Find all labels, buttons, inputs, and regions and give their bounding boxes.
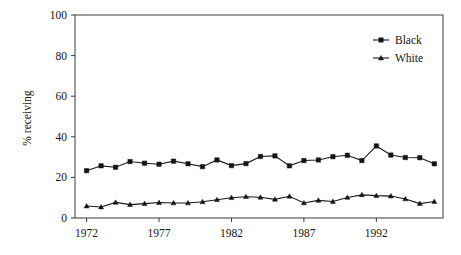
x-axis-tick-labels: 19721977198219871992 [75, 227, 388, 239]
data-point [389, 153, 393, 157]
data-point [432, 162, 436, 166]
legend-entry-black: Black [373, 34, 422, 46]
x-tick-label: 1972 [75, 227, 98, 239]
data-point [229, 163, 233, 167]
y-tick-label: 60 [56, 90, 68, 102]
x-tick-label: 1992 [365, 227, 388, 239]
data-point [99, 164, 103, 168]
data-point [432, 199, 437, 203]
data-point [345, 153, 349, 157]
data-point [84, 169, 88, 173]
x-tick-label: 1982 [220, 227, 243, 239]
data-point [403, 155, 407, 159]
y-tick-label: 0 [61, 212, 67, 224]
legend-entry-white: White [373, 52, 423, 64]
chart-legend: BlackWhite [373, 34, 423, 64]
plot-border [75, 15, 443, 218]
data-point [302, 158, 306, 162]
y-axis-ticks [71, 15, 75, 218]
y-tick-label: 40 [56, 131, 68, 143]
data-point [186, 162, 190, 166]
plot-frame [75, 15, 443, 218]
data-point [331, 154, 335, 158]
series-layer [84, 144, 437, 209]
y-tick-label: 80 [56, 50, 68, 62]
x-axis-ticks [87, 218, 377, 222]
data-point [360, 158, 364, 162]
data-point [200, 164, 204, 168]
data-point [128, 159, 132, 163]
data-point [113, 200, 118, 204]
data-point [113, 165, 117, 169]
data-point [273, 154, 277, 158]
data-point [157, 162, 161, 166]
y-axis-tick-labels: 020406080100 [50, 9, 68, 224]
y-tick-label: 100 [50, 9, 68, 21]
series-white [84, 192, 437, 209]
y-tick-label: 20 [56, 171, 68, 183]
chart-figure: 020406080100 19721977198219871992 BlackW… [0, 0, 461, 255]
data-point [374, 144, 378, 148]
data-point [142, 161, 146, 165]
data-point [287, 164, 291, 168]
x-tick-label: 1987 [292, 227, 315, 239]
y-axis-title: % receiving [21, 90, 34, 145]
data-point [258, 154, 262, 158]
data-point [215, 158, 219, 162]
data-point [244, 161, 248, 165]
data-point [287, 194, 292, 198]
legend-marker-square-icon [379, 38, 383, 42]
legend-label: White [395, 52, 423, 64]
data-point [418, 156, 422, 160]
series-black [84, 144, 436, 173]
line-chart: 020406080100 19721977198219871992 BlackW… [0, 0, 461, 255]
data-point [316, 158, 320, 162]
legend-label: Black [395, 34, 422, 46]
x-tick-label: 1977 [148, 227, 171, 239]
data-point [171, 159, 175, 163]
